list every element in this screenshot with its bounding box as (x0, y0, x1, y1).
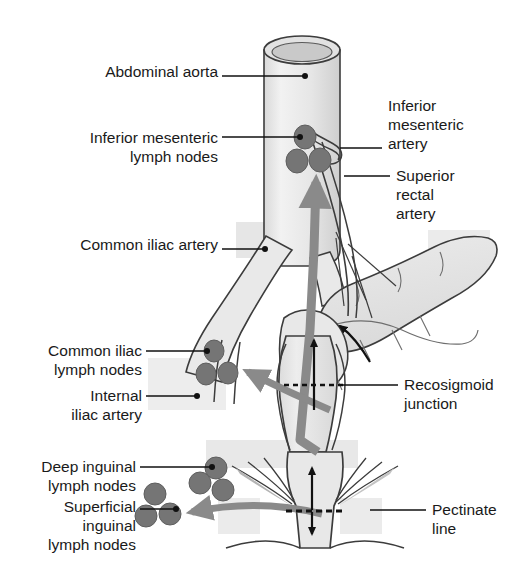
leader-dot-superficial-inguinal-lymph-nodes (173, 506, 179, 512)
leader-dot-common-iliac-lymph-nodes (204, 348, 210, 354)
label-inferior-mesenteric-artery: Inferior mesenteric artery (388, 96, 508, 153)
leader-dot-internal-iliac-artery (194, 393, 200, 399)
label-recosigmoid-junction: Recosigmoid junction (404, 375, 522, 413)
label-common-iliac-artery: Common iliac artery (38, 235, 218, 254)
label-superficial-inguinal-lymph-nodes: Superficial inguinal lymph nodes (14, 497, 136, 554)
label-abdominal-aorta: Abdominal aorta (68, 62, 218, 81)
label-pectinate-line: Pectinate line (432, 500, 524, 538)
figure-canvas: Abdominal aortaInferior mesenteric lymph… (0, 0, 525, 579)
label-common-iliac-lymph-nodes: Common iliac lymph nodes (18, 341, 142, 379)
label-inferior-mesenteric-lymph-nodes: Inferior mesenteric lymph nodes (46, 128, 218, 166)
leader-dot-inferior-mesenteric-lymph-nodes (297, 134, 303, 140)
label-internal-iliac-artery: Internal iliac artery (30, 386, 142, 424)
leader-dot-abdominal-aorta (302, 73, 308, 79)
label-deep-inguinal-lymph-nodes: Deep inguinal lymph nodes (10, 457, 136, 495)
leader-dot-common-iliac-artery (262, 246, 268, 252)
label-superior-rectal-artery: Superior rectal artery (396, 166, 512, 223)
leader-dot-deep-inguinal-lymph-nodes (209, 464, 215, 470)
superficial-inguinal-lymph-nodes (135, 483, 181, 527)
